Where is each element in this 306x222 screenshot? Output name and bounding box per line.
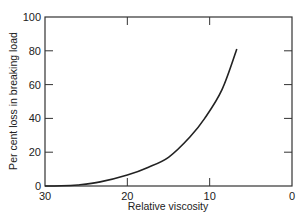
y-tick-label: 80 [29,45,41,57]
y-tick-label: 100 [23,11,41,23]
x-tick-label: 0 [289,190,295,202]
series-line-loss [45,49,237,186]
y-tick-label: 60 [29,79,41,91]
y-tick-label: 40 [29,112,41,124]
plot-frame [45,17,292,186]
y-tick-label: 20 [29,146,41,158]
y-axis-label: Per cent loss in breaking load [7,32,19,170]
chart: 020406080100 3020100 Relative viscosity … [0,0,306,222]
x-tick-label: 30 [39,190,51,202]
x-axis-label: Relative viscosity [128,200,209,212]
